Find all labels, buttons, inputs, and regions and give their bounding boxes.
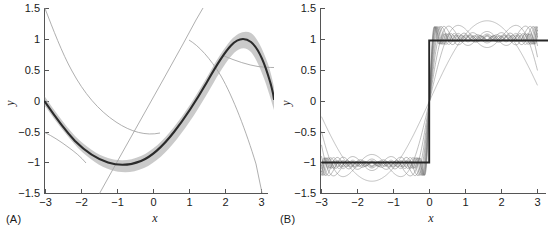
panel-a-xticklabel-1: −2 bbox=[75, 196, 88, 208]
panel-b-xticklabel-3: 0 bbox=[426, 196, 432, 208]
figure-root: 1.5 1 0.5 0 −0.5 −1 −1.5 −3 −2 −1 0 1 2 … bbox=[0, 0, 548, 227]
panel-b-xticklabel-2: −1 bbox=[387, 196, 400, 208]
panel-a-axis-spines bbox=[45, 8, 269, 194]
panel-a-yticklabel-2: 0.5 bbox=[25, 64, 40, 76]
panel-b-yticklabel-5: −1 bbox=[303, 156, 316, 168]
panel-a-xticklabel-6: 3 bbox=[258, 196, 264, 208]
panel-a-xticklabel-3: 0 bbox=[150, 196, 156, 208]
panel-b-xticklabel-4: 1 bbox=[462, 196, 468, 208]
panel-a-xticklabel-2: −1 bbox=[111, 196, 124, 208]
panel-a-x-ticklabels: −3 −2 −1 0 1 2 3 bbox=[39, 196, 264, 208]
panel-b-x-ticks bbox=[322, 189, 538, 194]
panel-b-yticklabel-0: 1.5 bbox=[301, 2, 316, 14]
panel-a-yticklabel-4: −0.5 bbox=[18, 126, 40, 138]
panel-a-y-ticklabels: 1.5 1 0.5 0 −0.5 −1 −1.5 bbox=[18, 2, 40, 199]
panel-b-xticklabel-5: 2 bbox=[498, 196, 504, 208]
panel-a-yticklabel-5: −1 bbox=[27, 156, 40, 168]
panel-b-y-ticklabels: 1.5 1 0.5 0 −0.5 −1 −1.5 bbox=[294, 2, 316, 199]
panel-a-yticklabel-6: −1.5 bbox=[18, 187, 40, 199]
panel-b-xticklabel-6: 3 bbox=[534, 196, 540, 208]
panel-b-x-ticklabels: −3 −2 −1 0 1 2 3 bbox=[315, 196, 540, 208]
panel-b: 1.5 1 0.5 0 −0.5 −1 −1.5 −3 −2 −1 0 1 2 … bbox=[274, 0, 548, 227]
panel-a-uncertainty-band bbox=[45, 32, 274, 172]
panel-b-xticklabel-1: −2 bbox=[351, 196, 364, 208]
panel-a-yticklabel-3: 0 bbox=[34, 95, 40, 107]
panel-a-yticklabel-1: 1 bbox=[34, 33, 40, 45]
panel-a-x-ticks bbox=[46, 189, 262, 194]
panel-a-xlabel: x bbox=[151, 211, 158, 225]
panel-a-label: (A) bbox=[6, 213, 21, 225]
panel-b-ylabel: y bbox=[279, 100, 293, 107]
panel-b-plot: 1.5 1 0.5 0 −0.5 −1 −1.5 −3 −2 −1 0 1 2 … bbox=[274, 0, 548, 227]
panel-b-yticklabel-1: 1 bbox=[310, 33, 316, 45]
panel-a-xticklabel-0: −3 bbox=[39, 196, 52, 208]
panel-b-xticklabel-0: −3 bbox=[315, 196, 328, 208]
panel-b-yticklabel-4: −0.5 bbox=[294, 126, 316, 138]
panel-a-thin-line-1 bbox=[45, 8, 160, 134]
panel-b-xlabel: x bbox=[427, 211, 434, 225]
panel-a-data bbox=[45, 8, 274, 194]
panel-b-yticklabel-2: 0.5 bbox=[301, 64, 316, 76]
panel-b-yticklabel-3: 0 bbox=[310, 95, 316, 107]
panel-a-xticklabel-4: 1 bbox=[186, 196, 192, 208]
panel-b-label: (B) bbox=[280, 213, 295, 225]
panel-a-ylabel: y bbox=[3, 100, 17, 107]
panel-a: 1.5 1 0.5 0 −0.5 −1 −1.5 −3 −2 −1 0 1 2 … bbox=[0, 0, 274, 227]
panel-b-yticklabel-6: −1.5 bbox=[294, 187, 316, 199]
panel-a-yticklabel-0: 1.5 bbox=[25, 2, 40, 14]
panel-a-xticklabel-5: 2 bbox=[222, 196, 228, 208]
panel-b-data bbox=[322, 21, 548, 181]
panel-a-plot: 1.5 1 0.5 0 −0.5 −1 −1.5 −3 −2 −1 0 1 2 … bbox=[0, 0, 274, 227]
